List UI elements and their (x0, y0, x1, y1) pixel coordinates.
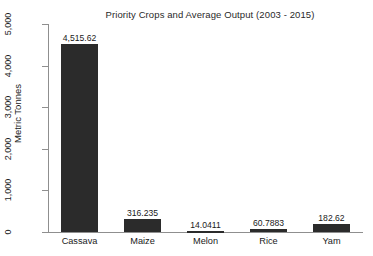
y-tick-mark (42, 24, 48, 25)
chart-title: Priority Crops and Average Output (2003 … (60, 9, 360, 20)
bar (313, 224, 350, 232)
x-tick-label: Yam (302, 236, 362, 246)
y-tick-mark (42, 149, 48, 150)
y-tick-label: 5,000 (0, 0, 28, 54)
bar-chart: Priority Crops and Average Output (2003 … (0, 0, 373, 256)
y-tick-mark (42, 232, 48, 233)
bar-value-label: 14.0411 (176, 220, 236, 230)
bar-value-label: 182.62 (302, 213, 362, 223)
x-tick-label: Rice (239, 236, 299, 246)
bar-value-label: 316.235 (113, 208, 173, 218)
y-tick-mark (42, 190, 48, 191)
x-tick-label: Melon (176, 236, 236, 246)
y-tick-mark (42, 66, 48, 67)
x-tick-label: Maize (113, 236, 173, 246)
y-axis-line (48, 24, 49, 233)
bar (250, 229, 287, 232)
bar-value-label: 60.7883 (239, 218, 299, 228)
bar (124, 219, 161, 232)
y-tick-mark (42, 107, 48, 108)
bar-value-label: 4,515.62 (50, 33, 110, 43)
bar (61, 44, 98, 232)
x-tick-label: Cassava (50, 236, 110, 246)
bar (187, 231, 224, 233)
